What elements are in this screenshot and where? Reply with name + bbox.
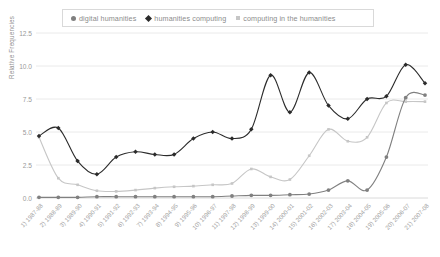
data-point: [249, 193, 253, 197]
y-axis-tick-label: 12.5: [19, 30, 32, 37]
data-point: [134, 189, 137, 192]
data-point: [230, 136, 235, 141]
series-computing-in-the-humanities: [38, 100, 427, 193]
data-point: [250, 168, 253, 171]
legend-item-humanities-computing: humanities computing: [146, 14, 226, 23]
data-point: [95, 195, 99, 199]
data-point: [308, 154, 311, 157]
data-point: [347, 140, 350, 143]
data-point: [154, 187, 157, 190]
chart-root: digital humanities humanities computing …: [0, 0, 440, 257]
series-line: [39, 100, 425, 192]
data-point: [173, 185, 176, 188]
data-point: [37, 195, 41, 199]
data-point: [404, 96, 408, 100]
plot-svg: [36, 33, 428, 198]
data-point: [366, 136, 369, 139]
chart-legend: digital humanities humanities computing …: [62, 9, 374, 27]
data-point: [307, 192, 311, 196]
data-point: [95, 172, 100, 177]
data-point: [288, 193, 292, 197]
y-axis-tick-label: 5.0: [23, 129, 32, 136]
data-point: [385, 102, 388, 105]
square-icon: [236, 16, 240, 20]
data-point: [56, 195, 60, 199]
y-axis-tick-label: 10.0: [19, 63, 32, 70]
data-point: [346, 179, 350, 183]
data-point: [269, 193, 273, 197]
data-point: [76, 184, 79, 187]
legend-label: digital humanities: [79, 14, 136, 23]
data-point: [172, 152, 177, 157]
data-point: [424, 100, 427, 103]
data-point: [365, 188, 369, 192]
data-point: [57, 177, 60, 180]
data-point: [327, 128, 330, 131]
data-point: [115, 190, 118, 193]
series-line: [39, 64, 425, 174]
diamond-icon: [145, 14, 152, 21]
data-point: [76, 195, 80, 199]
data-point: [211, 184, 214, 187]
data-point: [230, 194, 234, 198]
legend-item-digital-humanities: digital humanities: [71, 14, 136, 23]
y-axis-tick-label: 0.0: [23, 195, 32, 202]
data-point: [231, 182, 234, 185]
circle-icon: [71, 16, 76, 21]
plot-area: Relative Frequencies 0.02.55.07.510.012.…: [36, 33, 428, 198]
data-point: [423, 93, 427, 97]
data-point: [327, 188, 331, 192]
data-point: [153, 152, 158, 157]
y-axis-title: Relative Frequencies: [8, 16, 15, 79]
series-humanities-computing: [37, 62, 428, 176]
data-point: [192, 185, 195, 188]
legend-item-computing-in-the-humanities: computing in the humanities: [236, 14, 335, 23]
data-point: [404, 100, 407, 103]
data-point: [96, 189, 99, 192]
data-point: [211, 195, 215, 199]
data-point: [269, 176, 272, 179]
data-point: [210, 130, 215, 135]
legend-label: humanities computing: [154, 14, 226, 23]
data-point: [153, 195, 157, 199]
data-point: [385, 155, 389, 159]
legend-label: computing in the humanities: [243, 14, 335, 23]
series-line: [39, 92, 425, 197]
data-point: [289, 178, 292, 181]
data-point: [346, 117, 351, 122]
data-point: [134, 195, 138, 199]
data-point: [114, 195, 118, 199]
data-point: [133, 150, 138, 155]
y-axis-tick-label: 2.5: [23, 162, 32, 169]
y-axis-tick-label: 7.5: [23, 96, 32, 103]
data-point: [192, 195, 196, 199]
data-point: [172, 195, 176, 199]
